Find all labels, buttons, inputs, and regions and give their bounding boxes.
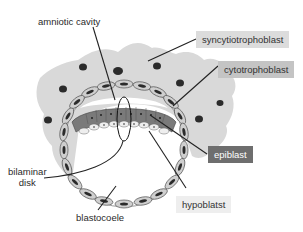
label-bilaminar-disk-line1: bilaminar — [8, 166, 47, 177]
label-epiblast: epiblast — [208, 146, 253, 163]
label-bilaminar-disk-line2: disk — [8, 177, 47, 188]
label-bilaminar-disk: bilaminar disk — [8, 166, 47, 188]
label-syncytiotrophoblast: syncytiotrophoblast — [196, 31, 289, 48]
label-amniotic-cavity: amniotic cavity — [38, 16, 100, 27]
label-hypoblast: hypoblatst — [176, 196, 231, 213]
label-blastocoele: blastocoele — [76, 212, 124, 223]
label-cytotrophoblast: cytotrophoblast — [218, 61, 294, 78]
